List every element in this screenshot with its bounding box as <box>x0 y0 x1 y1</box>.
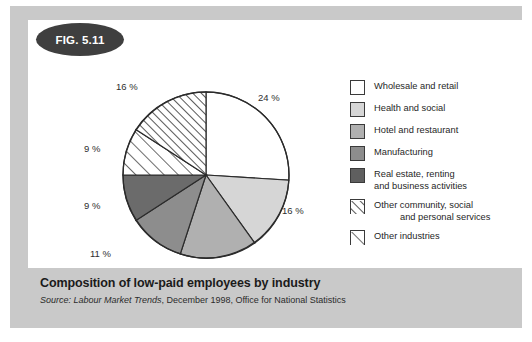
pie-label-real-estate-renting-and-business-activities: 9 % <box>84 200 100 211</box>
hatch-dense-swatch-icon <box>350 199 365 214</box>
legend-label: Other community, social <box>374 200 473 210</box>
legend-item-manufacturing: Manufacturing <box>350 146 530 161</box>
legend-item-other-community-social-and-personal-services: Other community, social and personal ser… <box>350 199 530 223</box>
caption-band: Composition of low-paid employees by ind… <box>28 268 522 320</box>
legend-label: Manufacturing <box>374 146 433 159</box>
legend-label-line2: and personal services <box>374 212 490 224</box>
legend: Wholesale and retail Health and social H… <box>350 80 530 252</box>
legend-item-other-industries: Other industries <box>350 230 530 245</box>
pie-label-manufacturing: 11 % <box>90 248 111 259</box>
darkest-grey-swatch-icon <box>350 168 365 183</box>
figure-screenshot: 24 % 16 % 15 % 11 % 9 % 9 % 16 % Wholesa… <box>0 0 532 342</box>
legend-label: Real estate, renting <box>374 169 455 179</box>
pie-label-wholesale-and-retail: 24 % <box>258 92 280 103</box>
pie-label-other-industries: 16 % <box>116 81 138 92</box>
white-swatch-icon <box>350 80 365 95</box>
chart-area: 24 % 16 % 15 % 11 % 9 % 9 % 16 % Wholesa… <box>28 20 522 268</box>
dark-grey-swatch-icon <box>350 146 365 161</box>
source-journal: Labour Market Trends <box>74 295 162 305</box>
legend-item-health-and-social: Health and social <box>350 102 530 117</box>
figure-panel: 24 % 16 % 15 % 11 % 9 % 9 % 16 % Wholesa… <box>10 6 522 328</box>
figure-number-label: FIG. 5.11 <box>55 34 104 46</box>
light-grey-swatch-icon <box>350 102 365 117</box>
figure-caption-title: Composition of low-paid employees by ind… <box>40 276 320 290</box>
legend-item-real-estate-renting-and-business-activities: Real estate, renting and business activi… <box>350 168 530 192</box>
figure-number-badge: FIG. 5.11 <box>36 23 124 56</box>
source-rest: , December 1998, Office for National Sta… <box>161 295 345 305</box>
pie-svg <box>120 89 292 261</box>
legend-label: Health and social <box>374 102 445 115</box>
pie-slice-wholesale-and-retail <box>206 92 289 180</box>
figure-source-line: Source: Labour Market Trends, December 1… <box>40 295 346 305</box>
source-label: Source: <box>40 295 71 305</box>
legend-label: Hotel and restaurant <box>374 124 458 137</box>
pie-label-health-and-social: 16 % <box>282 205 304 216</box>
legend-item-hotel-and-restaurant: Hotel and restaurant <box>350 124 530 139</box>
legend-label: Other industries <box>374 230 440 243</box>
legend-item-wholesale-and-retail: Wholesale and retail <box>350 80 530 95</box>
pie-chart <box>120 89 292 261</box>
hatch-sparse-swatch-icon <box>350 230 365 245</box>
medium-grey-swatch-icon <box>350 124 365 139</box>
legend-label: Wholesale and retail <box>374 80 458 93</box>
legend-label-line2: and business activities <box>374 181 467 193</box>
pie-label-other-community-social-and-personal-services: 9 % <box>84 143 100 154</box>
